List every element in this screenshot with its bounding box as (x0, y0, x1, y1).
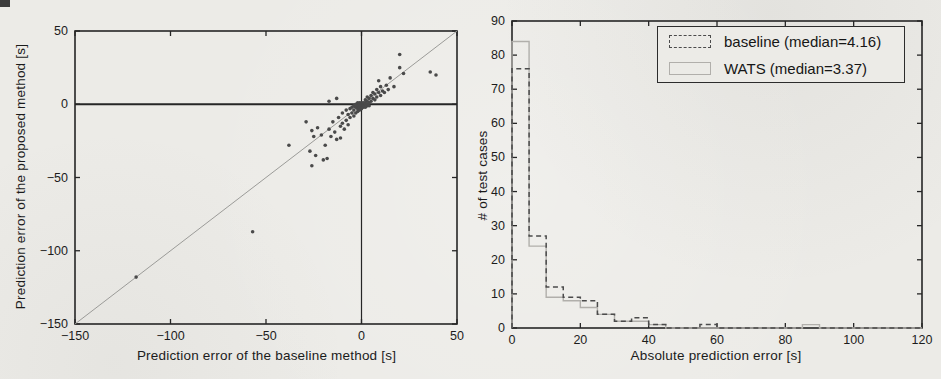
figure-page: −150−100−50050−150−100−50050 02040608010… (0, 0, 941, 379)
data-point (316, 126, 320, 130)
data-point (335, 138, 339, 142)
y-tick-label: 20 (491, 253, 505, 267)
data-point (333, 130, 337, 134)
data-point (327, 127, 331, 131)
y-tick-label: −50 (47, 171, 68, 185)
data-point (134, 275, 138, 279)
data-point (314, 154, 318, 158)
x-tick-label: 60 (710, 333, 724, 347)
y-tick-label: 0 (498, 321, 505, 335)
y-tick-label: −100 (40, 244, 68, 258)
data-point (379, 94, 383, 98)
data-point (331, 120, 335, 124)
x-tick-label: −100 (156, 329, 184, 343)
baseline-dashed-sample-icon (669, 35, 711, 48)
y-tick-label: 90 (491, 14, 505, 28)
histogram-xaxis-label: Absolute prediction error [s] (510, 348, 922, 363)
wats-step-path (512, 41, 922, 328)
legend-entry-baseline: baseline (median=4.16) (658, 29, 904, 53)
scatter-yaxis-label: Prediction error of the proposed method … (13, 29, 28, 325)
y-tick-label: 60 (491, 116, 505, 130)
baseline-step-path (512, 69, 922, 328)
histogram-legend: baseline (median=4.16) WATS (median=3.37… (657, 26, 905, 83)
data-point (388, 76, 392, 80)
x-tick-label: 120 (912, 333, 933, 347)
y-tick-label: 80 (491, 48, 505, 62)
data-point (310, 164, 314, 168)
scatter-xaxis-label: Prediction error of the baseline method … (75, 348, 458, 363)
data-point (308, 149, 312, 153)
legend-label-wats: WATS (median=3.37) (724, 60, 867, 77)
data-point (385, 83, 389, 87)
x-tick-label: −50 (255, 329, 276, 343)
data-point (375, 95, 379, 99)
data-point (323, 143, 327, 147)
x-tick-label: 40 (642, 333, 656, 347)
y-tick-label: 10 (491, 287, 505, 301)
data-point (377, 79, 381, 83)
data-point (402, 72, 406, 76)
data-point (304, 120, 308, 124)
histogram-yaxis-label: # of test cases (475, 115, 490, 237)
x-tick-label: 0 (358, 329, 365, 343)
data-point (428, 70, 432, 74)
x-tick-label: 20 (573, 333, 587, 347)
data-point (339, 136, 343, 140)
data-point (322, 158, 326, 162)
scatter-points (134, 53, 437, 279)
data-point (434, 73, 438, 77)
data-point (344, 108, 348, 112)
data-point (310, 129, 314, 133)
data-point (379, 85, 383, 89)
y-tick-label: 70 (491, 82, 505, 96)
wats-solid-sample-icon (669, 62, 711, 75)
y-tick-label: −150 (40, 317, 68, 331)
y-tick-label: 50 (54, 24, 68, 38)
data-point (398, 53, 402, 57)
data-point (386, 88, 390, 92)
y-tick-label: 40 (491, 185, 505, 199)
data-point (335, 97, 339, 101)
data-point (348, 116, 352, 120)
scatter-plot: −150−100−50050−150−100−50050 (0, 0, 470, 379)
x-tick-label: 50 (450, 329, 464, 343)
data-point (383, 91, 387, 95)
data-point (392, 85, 396, 89)
data-point (325, 157, 329, 161)
data-point (287, 143, 291, 147)
y-tick-label: 0 (61, 97, 68, 111)
data-point (329, 135, 333, 139)
x-tick-label: 0 (509, 333, 516, 347)
y-tick-label: 50 (491, 150, 505, 164)
data-point (312, 135, 316, 139)
legend-entry-wats: WATS (median=3.37) (658, 56, 904, 80)
data-point (341, 111, 345, 115)
y-tick-label: 30 (491, 219, 505, 233)
legend-label-baseline: baseline (median=4.16) (724, 33, 881, 50)
data-point (343, 127, 347, 131)
ticks: −150−100−50050−150−100−50050 (40, 24, 464, 343)
x-tick-label: −150 (61, 329, 89, 343)
data-point (327, 100, 331, 104)
x-tick-label: 100 (843, 333, 864, 347)
x-tick-label: 80 (778, 333, 792, 347)
data-point (398, 66, 402, 70)
data-point (341, 121, 345, 125)
data-point (337, 116, 341, 120)
data-point (344, 119, 348, 123)
identity-diagonal-line (75, 31, 457, 324)
data-point (346, 123, 350, 127)
data-point (320, 133, 324, 137)
data-point (251, 230, 255, 234)
